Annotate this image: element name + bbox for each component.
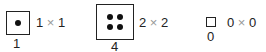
- dimension-label: 1 × 1: [36, 16, 65, 29]
- dimension-label: 0 × 0: [227, 16, 256, 29]
- grid-box: [96, 4, 134, 40]
- count-label: 1: [13, 37, 20, 50]
- dot-icon: [107, 24, 113, 30]
- count-label: 0: [207, 30, 214, 43]
- dimension-label: 2 × 2: [139, 16, 168, 29]
- grid-box: [6, 11, 30, 35]
- dot-icon: [15, 20, 21, 26]
- grid-box: [206, 17, 216, 27]
- dot-icon: [117, 14, 123, 20]
- count-label: 4: [111, 40, 118, 52]
- dot-icon: [117, 24, 123, 30]
- dot-icon: [107, 14, 113, 20]
